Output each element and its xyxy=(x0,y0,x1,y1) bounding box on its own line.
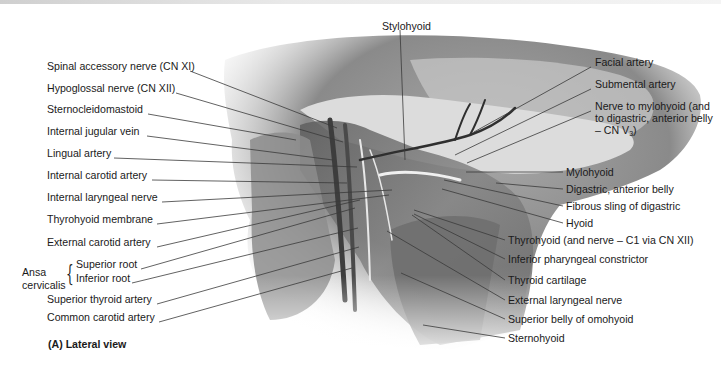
label-mylohyoid: Mylohyoid xyxy=(566,166,614,178)
label-facial-artery: Facial artery xyxy=(595,56,653,68)
label-thyrohyoid-membrane: Thyrohyoid membrane xyxy=(47,213,153,225)
label-stylohyoid: Stylohyoid xyxy=(382,20,431,32)
label-internal-jugular-vein: Internal jugular vein xyxy=(47,125,139,137)
label-spinal-accessory-nerve: Spinal accessory nerve (CN XI) xyxy=(47,60,195,72)
label-submental-artery: Submental artery xyxy=(595,78,676,90)
figure-caption: (A) Lateral view xyxy=(48,338,126,350)
label-thyrohyoid: Thyrohyoid (and nerve – C1 via CN XII) xyxy=(508,234,693,246)
ansa-line2: cervicalis xyxy=(22,279,66,292)
label-internal-laryngeal-nerve: Internal laryngeal nerve xyxy=(47,191,158,203)
label-hypoglossal-nerve: Hypoglossal nerve (CN XII) xyxy=(47,82,175,94)
label-superior-belly-of-omohyoid: Superior belly of omohyoid xyxy=(508,313,633,325)
label-superior-thyroid-artery: Superior thyroid artery xyxy=(47,293,152,305)
label-sternohyoid: Sternohyoid xyxy=(508,332,565,344)
label-external-carotid-artery: External carotid artery xyxy=(47,236,151,248)
nerve-to-mylohyoid-text: Nerve to mylohyoid (and to digastric, an… xyxy=(595,100,713,136)
label-common-carotid-artery: Common carotid artery xyxy=(47,311,155,323)
label-ansa-cervicalis: Ansa cervicalis xyxy=(22,266,66,292)
label-inferior-pharyngeal-constrictor: Inferior pharyngeal constrictor xyxy=(508,253,648,265)
label-lingual-artery: Lingual artery xyxy=(47,147,111,159)
label-external-laryngeal-nerve: External laryngeal nerve xyxy=(508,294,622,306)
label-sternocleidomastoid: Sternocleidomastoid xyxy=(47,103,143,115)
nerve-to-mylohyoid-suffix: ) xyxy=(633,124,637,136)
anatomy-figure: Stylohyoid Spinal accessory nerve (CN XI… xyxy=(0,0,721,367)
label-nerve-to-mylohyoid: Nerve to mylohyoid (and to digastric, an… xyxy=(595,100,721,140)
brace-icon: { xyxy=(66,262,74,286)
label-hyoid: Hyoid xyxy=(566,217,593,229)
label-thyroid-cartilage: Thyroid cartilage xyxy=(508,274,586,286)
label-fibrous-sling-of-digastric: Fibrous sling of digastric xyxy=(566,200,680,212)
ansa-line1: Ansa xyxy=(22,266,66,279)
label-internal-carotid-artery: Internal carotid artery xyxy=(47,169,147,181)
label-inferior-root: Inferior root xyxy=(76,272,130,284)
label-digastric-anterior-belly: Digastric, anterior belly xyxy=(566,183,674,195)
label-superior-root: Superior root xyxy=(76,258,137,270)
